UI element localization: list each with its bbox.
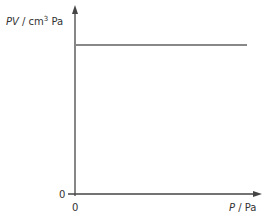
y-zero-tick: 0 (59, 189, 65, 200)
chart: PV / cm3 Pa 0 0 P / Pa (0, 0, 268, 219)
x-zero-tick: 0 (72, 202, 78, 213)
y-axis-arrow-icon (72, 5, 78, 14)
y-axis-label: PV / cm3 Pa (6, 15, 63, 27)
x-axis-label: P / Pa (229, 202, 256, 213)
x-axis-arrow-icon (253, 191, 262, 197)
